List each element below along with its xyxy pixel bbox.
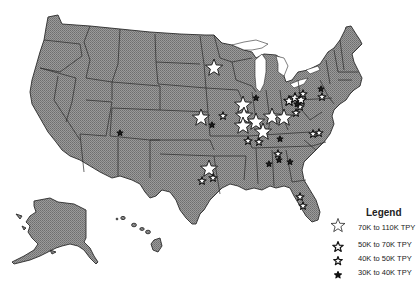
legend-item-small: 30K to 40K TPY: [326, 267, 418, 281]
legend-item-medium: 40K to 50K TPY: [326, 253, 418, 267]
legend-title: Legend: [366, 207, 402, 218]
legend-item-large: 50K to 70K TPY: [326, 239, 418, 253]
legend-label: 30K to 40K TPY: [358, 268, 412, 277]
contiguous-us-landmass: [30, 15, 362, 224]
alaska-inset: [12, 198, 98, 264]
alaska-island: [16, 214, 22, 219]
alaska-island: [22, 226, 26, 230]
legend-item-xlarge: 70K to 110K TPY: [326, 221, 418, 235]
star-xlarge-icon: [326, 217, 350, 233]
alaska-island: [50, 250, 56, 254]
legend-label: 70K to 110K TPY: [358, 223, 415, 232]
hawaii-inset: [116, 216, 162, 252]
legend-label: 50K to 70K TPY: [358, 240, 412, 249]
legend-label: 40K to 50K TPY: [358, 254, 412, 263]
star-small-icon: [326, 267, 350, 283]
